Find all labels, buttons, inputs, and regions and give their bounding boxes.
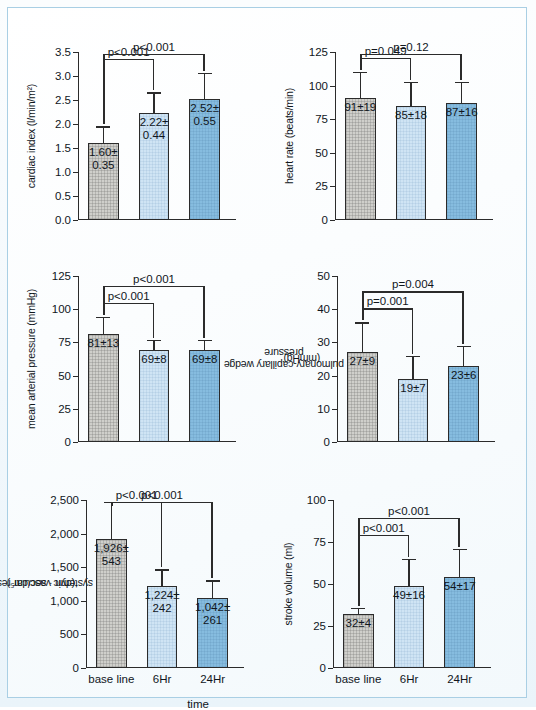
y-tick <box>330 153 335 154</box>
bar-cardiac-index-1 <box>139 113 169 220</box>
y-tick-label: 75 <box>315 113 328 125</box>
figure-frame: cardiac index (l/min/m²)0.00.51.01.52.02… <box>7 7 527 698</box>
y-tick-label: 0.0 <box>55 214 71 226</box>
error-bar-1 <box>153 92 154 113</box>
y-tick <box>73 172 78 173</box>
y-axis-title-text: mean arterial pressure (mmHg) <box>25 289 37 429</box>
y-axis-title-text: pulmonary-capillary wedge pressure(mmHg) <box>272 284 308 434</box>
bracket-top <box>111 502 212 503</box>
error-bar-cap-2 <box>455 82 469 83</box>
error-bar-cap-2 <box>457 346 471 347</box>
y-tick <box>73 342 78 343</box>
y-axis-line <box>337 276 338 442</box>
y-tick-label: 2.5 <box>55 94 71 106</box>
error-bar-cap-1 <box>147 92 161 93</box>
y-tick-label: 100 <box>309 80 328 92</box>
bar-systemic-vascular-resistance-2 <box>197 598 227 668</box>
y-tick <box>330 52 335 53</box>
y-axis-title-text: stroke volume (ml) <box>282 543 294 626</box>
y-tick <box>332 276 337 277</box>
bracket-right-leg <box>408 535 409 557</box>
y-tick-label: 50 <box>58 370 71 382</box>
y-tick <box>73 220 78 221</box>
y-tick-label: 40 <box>317 303 330 315</box>
y-tick-label: 100 <box>52 303 71 315</box>
bracket-top <box>360 54 461 55</box>
error-bar-1 <box>153 340 154 351</box>
bracket-top <box>360 58 411 59</box>
y-tick <box>332 409 337 410</box>
error-bar-cap-0 <box>355 322 369 323</box>
y-tick-label: 50 <box>315 147 328 159</box>
bar-stroke-volume-0 <box>343 614 373 668</box>
error-bar-0 <box>360 72 361 98</box>
error-bar-cap-0 <box>96 317 110 318</box>
bracket-right-leg <box>460 54 461 80</box>
error-bar-0 <box>362 322 363 352</box>
chart-panel-pulmonary-capillary-wedge-pressure: pulmonary-capillary wedge pressure(mmHg)… <box>275 242 534 464</box>
bar-stroke-volume-2 <box>444 577 474 668</box>
p-value-label-systemic-vascular-resistance-1: p<0.001 <box>139 489 185 501</box>
error-bar-0 <box>111 502 112 538</box>
error-bar-2 <box>204 73 205 99</box>
y-tick <box>73 124 78 125</box>
plot-area-cardiac-index: 0.00.51.01.52.02.53.03.51.60±0.35base li… <box>78 52 230 220</box>
bracket-top <box>358 518 459 519</box>
error-bar-1 <box>408 559 409 586</box>
y-tick-label: 125 <box>309 46 328 58</box>
y-tick <box>332 376 337 377</box>
bracket-left-leg <box>103 286 104 315</box>
bracket-right-leg <box>153 59 154 91</box>
y-axis-title-cardiac-index: cardiac index (l/min/m²) <box>18 52 44 220</box>
error-bar-cap-0 <box>353 72 367 73</box>
bracket-right-leg <box>462 291 463 343</box>
y-axis-line <box>78 276 79 442</box>
y-tick-label: 125 <box>52 270 71 282</box>
x-tick-label-0: base line <box>88 673 134 685</box>
error-bar-cap-2 <box>198 340 212 341</box>
y-tick-label: 0 <box>73 662 79 674</box>
y-axis-title-pulmonary-capillary-wedge-pressure: pulmonary-capillary wedge pressure(mmHg) <box>277 276 303 442</box>
y-tick <box>73 76 78 77</box>
y-axis-line <box>333 500 334 668</box>
y-tick <box>332 442 337 443</box>
bar-mean-arterial-pressure-1 <box>139 350 169 442</box>
error-bar-1 <box>412 356 413 379</box>
error-bar-cap-2 <box>453 549 467 550</box>
chart-panel-heart-rate: heart rate (beats/min)025507510012591±19… <box>275 16 534 242</box>
error-bar-cap-1 <box>147 340 161 341</box>
bracket-top <box>362 291 463 292</box>
bar-systemic-vascular-resistance-0 <box>96 539 126 668</box>
bracket-right-leg <box>211 502 212 578</box>
bracket-right-leg <box>161 502 162 567</box>
y-tick <box>330 186 335 187</box>
y-axis-line <box>86 500 87 668</box>
bracket-right-leg <box>203 286 204 338</box>
bracket-left-leg <box>362 291 363 320</box>
x-tick-label-2: 24Hr <box>447 673 472 685</box>
chart-panel-systemic-vascular-resistance: systemic vascular resistance(dyn · sec/c… <box>16 464 275 694</box>
y-tick-label: 10 <box>317 403 330 415</box>
p-value-label-mean-arterial-pressure-0: p<0.001 <box>106 290 152 302</box>
bracket-right-leg <box>153 303 154 338</box>
error-bar-cap-1 <box>402 559 416 560</box>
bar-mean-arterial-pressure-0 <box>88 334 118 442</box>
y-tick <box>330 86 335 87</box>
bar-heart-rate-0 <box>345 98 375 220</box>
x-tick-label-1: 6Hr <box>153 673 172 685</box>
y-axis-title-heart-rate: heart rate (beats/min) <box>277 52 301 220</box>
y-tick <box>81 567 86 568</box>
y-tick-label: 2.0 <box>55 118 71 130</box>
y-tick-label: 20 <box>317 370 330 382</box>
y-tick-label: 3.0 <box>55 70 71 82</box>
y-tick <box>330 220 335 221</box>
y-tick <box>73 442 78 443</box>
y-tick-label: 0 <box>320 662 326 674</box>
y-axis-title-mean-arterial-pressure: mean arterial pressure (mmHg) <box>18 276 44 442</box>
y-tick-label: 3.5 <box>55 46 71 58</box>
y-tick-label: 0.5 <box>55 190 71 202</box>
p-value-label-cardiac-index-1: p<0.001 <box>131 41 177 53</box>
error-bar-2 <box>204 340 205 351</box>
y-tick <box>81 601 86 602</box>
